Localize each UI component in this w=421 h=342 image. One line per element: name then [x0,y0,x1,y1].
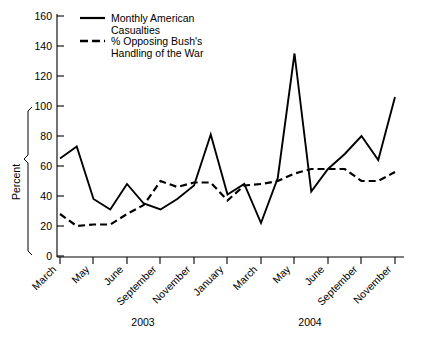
x-tick-label: November [150,263,193,306]
y-axis-ticks [57,16,64,256]
y-tick-label: 100 [34,100,52,112]
y-tick-label: 20 [40,220,52,232]
y-tick-label: 120 [34,70,52,82]
legend-label-opposing-line1: % Opposing Bush's [111,35,202,47]
y-tick-label: 0 [46,250,52,262]
series-line-opposing-bush [60,169,395,226]
x-tick-label: March [29,263,58,292]
year-label-2003: 2003 [131,316,155,328]
x-tick-label: June [101,263,126,288]
series-line-monthly-casualties [60,54,395,224]
y-tick-label: 160 [34,10,52,22]
x-tick-label: January [191,262,226,297]
y-tick-label: 80 [40,130,52,142]
x-axis-tick-labels: March May June September November Januar… [29,262,393,307]
y-axis-title: Percent [10,164,22,200]
legend-label-casualties-line1: Monthly American [111,12,195,24]
y-tick-label: 60 [40,160,52,172]
y-axis-range-brace [24,107,32,255]
x-tick-label: June [302,263,327,288]
x-tick-label: May [69,262,92,285]
year-label-2004: 2004 [298,316,322,328]
x-tick-label: May [270,262,293,285]
y-axis-tick-labels: 160 140 120 100 80 60 40 20 0 [34,10,52,262]
x-axis-ticks [60,257,395,264]
chart-container: 160 140 120 100 80 60 40 20 0 Percent [0,0,421,342]
x-axis-group-labels: 2003 2004 [131,316,322,328]
chart-legend: Monthly American Casualties % Opposing B… [80,12,204,59]
x-tick-label: March [230,263,259,292]
x-tick-label: November [351,263,394,306]
legend-label-opposing-line2: Handling of the War [111,47,204,59]
line-chart-svg: 160 140 120 100 80 60 40 20 0 Percent [0,0,421,342]
y-tick-label: 40 [40,190,52,202]
y-tick-label: 140 [34,40,52,52]
